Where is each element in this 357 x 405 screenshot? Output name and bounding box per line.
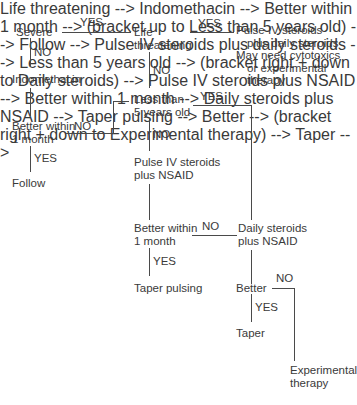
edge-line-better-left-no-horizontal bbox=[66, 133, 114, 134]
node-better-left-line1: Better within bbox=[12, 120, 75, 132]
node-pulse-iv-daily-line1: Pulse IV steroids bbox=[236, 24, 322, 36]
edge-label-better-mid-yes: YES bbox=[153, 255, 176, 268]
node-pulse-iv-daily-line5: therapy bbox=[236, 74, 285, 86]
node-daily-steroids-plus-nsaid: Daily steroids plus NSAID bbox=[238, 222, 307, 247]
edge-line-indomethacin-to-better-left bbox=[30, 88, 31, 116]
edge-line-better-mid-no bbox=[192, 235, 237, 236]
node-experimental-therapy: Experimental therapy bbox=[290, 364, 357, 389]
edge-line-severe-to-indomethacin bbox=[30, 38, 31, 66]
node-taper: Taper bbox=[236, 327, 265, 340]
edge-label-severe-no: NO bbox=[34, 46, 51, 59]
edge-label-less-than-5-yes: YES bbox=[200, 90, 223, 103]
node-pulse-iv-steroids-plus-daily-steroids: Pulse IV steroids plus daily steroids Ma… bbox=[236, 24, 340, 87]
node-life-threatening-line1: Life bbox=[134, 26, 153, 38]
node-pulse-iv-daily-line2: plus daily steroids bbox=[236, 37, 338, 49]
edge-label-better-right-yes: YES bbox=[255, 301, 278, 314]
edge-label-life-threatening-yes: YES bbox=[198, 17, 221, 30]
node-less-than-5-years-old: Less than 5 years old bbox=[134, 93, 190, 118]
edge-line-less-than-5-no bbox=[149, 119, 150, 151]
node-indomethacin: Indomethacin bbox=[12, 73, 81, 86]
edge-line-daily-steroids-to-better-right bbox=[251, 250, 252, 284]
edge-line-better-right-no-horizontal bbox=[272, 288, 294, 289]
edge-line-life-threatening-yes bbox=[190, 32, 234, 33]
edge-label-life-threatening-no: NO bbox=[153, 64, 170, 77]
edge-line-better-left-no-top bbox=[113, 101, 129, 102]
edge-label-better-left-no: NO bbox=[74, 120, 91, 133]
node-daily-steroids-line1: Daily steroids bbox=[238, 222, 307, 234]
node-pulse-iv-nsaid-line2: plus NSAID bbox=[134, 169, 193, 181]
flowchart-diagram: Severe Life threatening --> YES Indometh… bbox=[0, 0, 357, 405]
node-life-threatening: Life threatening bbox=[134, 26, 192, 51]
node-severe: Severe bbox=[16, 26, 52, 39]
edge-label-better-right-no: NO bbox=[276, 272, 293, 285]
node-life-threatening-line2: threatening bbox=[134, 39, 192, 51]
edge-line-better-right-no-vertical bbox=[294, 288, 295, 361]
node-less-than-5-line1: Less than bbox=[134, 93, 184, 105]
node-pulse-iv-nsaid-line1: Pulse IV steroids bbox=[134, 156, 220, 168]
node-experimental-line1: Experimental bbox=[290, 364, 357, 376]
node-follow: Follow bbox=[12, 177, 45, 190]
node-better-mid-line2: 1 month bbox=[134, 235, 176, 247]
edge-line-less-than-5-yes-horizontal bbox=[193, 105, 251, 106]
edge-line-severe-to-life-threatening bbox=[62, 32, 131, 33]
edge-line-better-mid-to-taper-pulsing bbox=[149, 248, 150, 276]
edge-label-better-mid-no: NO bbox=[202, 220, 219, 233]
node-better-right: Better bbox=[236, 282, 267, 295]
edge-label-better-left-yes: YES bbox=[34, 152, 57, 165]
node-experimental-line2: therapy bbox=[290, 377, 328, 389]
node-daily-steroids-line2: plus NSAID bbox=[238, 235, 297, 247]
node-taper-pulsing: Taper pulsing bbox=[134, 282, 202, 295]
node-less-than-5-line2: 5 years old bbox=[134, 106, 190, 118]
edge-line-less-than-5-yes-vertical bbox=[251, 105, 252, 220]
edge-label-less-than-5-no: NO bbox=[153, 128, 170, 141]
node-pulse-iv-daily-line3: May need cytotoxics bbox=[236, 49, 340, 61]
edge-line-better-left-no-vertical bbox=[113, 101, 114, 133]
edge-line-life-threatening-no bbox=[149, 52, 150, 88]
edge-label-severe-yes: YES bbox=[80, 16, 103, 29]
edge-line-better-right-to-taper bbox=[251, 294, 252, 322]
node-better-left-line2: 1 month bbox=[12, 133, 54, 145]
node-pulse-iv-steroids-plus-nsaid: Pulse IV steroids plus NSAID bbox=[134, 156, 220, 181]
node-pulse-iv-daily-line4: or experimental bbox=[236, 62, 326, 74]
node-better-within-1-month-mid: Better within 1 month bbox=[134, 222, 197, 247]
edge-line-pulse-iv-nsaid-to-better-mid bbox=[149, 184, 150, 220]
node-better-mid-line1: Better within bbox=[134, 222, 197, 234]
edge-line-better-left-to-follow bbox=[30, 146, 31, 172]
